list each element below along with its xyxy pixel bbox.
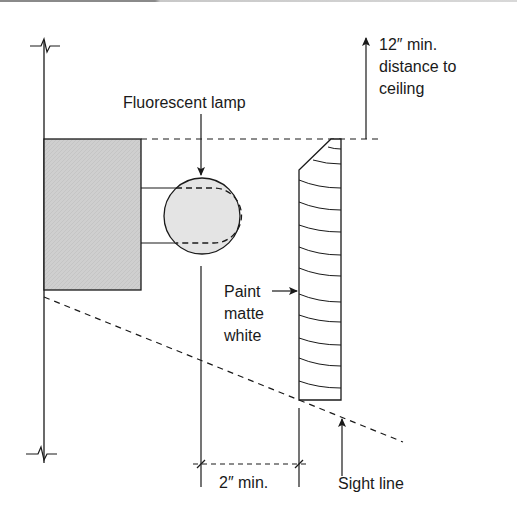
ceiling-label-line3: ceiling [379,80,424,97]
wall-break-bottom-icon [26,447,57,460]
lighting-valance-diagram: Fluorescent lamp Paint matte white 12″ m… [0,0,517,511]
valance-board [299,139,341,400]
paint-label-line1: Paint [224,283,261,300]
mounting-box [44,139,141,290]
fluorescent-lamp-icon [164,178,242,254]
paint-label-line2: matte [224,305,264,322]
ceiling-label-line1: 12″ min. [379,36,437,53]
wall-break-top-icon [30,39,60,52]
paint-label-line3: white [223,327,261,344]
lamp-label: Fluorescent lamp [123,94,246,111]
ceiling-label-line2: distance to [379,58,456,75]
dimension-label: 2″ min. [219,474,268,491]
sight-line-label: Sight line [338,475,404,492]
